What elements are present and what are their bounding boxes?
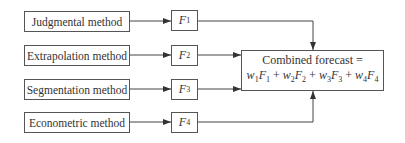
method-box-judgmental: Judgmental method (24, 11, 130, 32)
forecast-subscript: 4 (186, 118, 190, 127)
method-box-econometric: Econometric method (24, 112, 130, 133)
forecast-box-f3: F3 (171, 79, 198, 100)
forecast-symbol: F (179, 82, 186, 97)
forecast-subscript: 2 (186, 51, 190, 60)
forecast-subscript: 1 (186, 16, 190, 25)
method-label: Judgmental method (32, 16, 122, 28)
forecast-box-f1: F1 (171, 10, 198, 31)
forecast-subscript: 3 (186, 85, 190, 94)
forecast-box-f2: F2 (171, 45, 198, 66)
forecast-box-f4: F4 (171, 112, 198, 133)
forecast-symbol: F (179, 13, 186, 28)
method-label: Extrapolation method (27, 50, 127, 62)
method-box-extrapolation: Extrapolation method (24, 45, 130, 66)
forecast-combination-diagram: Judgmental method Extrapolation method S… (0, 0, 405, 143)
method-label: Econometric method (29, 117, 125, 129)
combined-forecast-formula: w1F1 + w2F2 + w3F3 + w4F4 (247, 68, 379, 87)
forecast-symbol: F (179, 48, 186, 63)
combined-forecast-box: Combined forecast = w1F1 + w2F2 + w3F3 +… (241, 50, 384, 91)
method-label: Segmentation method (27, 84, 128, 96)
combined-forecast-title: Combined forecast = (262, 53, 363, 68)
method-box-segmentation: Segmentation method (24, 79, 130, 100)
forecast-symbol: F (179, 115, 186, 130)
